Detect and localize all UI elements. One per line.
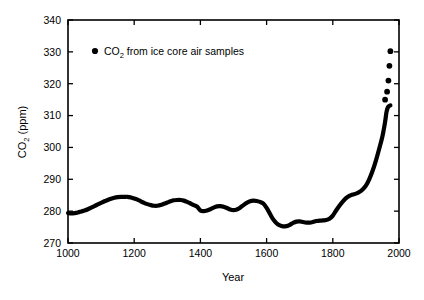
x-tick-label: 2000 (387, 247, 411, 259)
y-axis-title-unit: (ppm) (16, 106, 28, 138)
x-tick-label: 1400 (189, 247, 213, 259)
chart-canvas: 270280290300310320330340 100012001400160… (0, 0, 424, 300)
x-tick-label: 1600 (255, 247, 279, 259)
x-tick-label: 1800 (321, 247, 345, 259)
x-tick-label: 1200 (123, 247, 147, 259)
legend-label-rest: from ice core air samples (124, 45, 244, 57)
x-tick-label: 1000 (56, 247, 80, 259)
y-tick-label: 340 (43, 14, 61, 26)
data-point-marker (382, 97, 388, 103)
y-axis-title-base: CO (16, 141, 28, 158)
y-tick-label: 330 (43, 46, 61, 58)
legend-marker-filled-circle-icon (92, 48, 98, 54)
co2-ice-core-chart: 270280290300310320330340 100012001400160… (0, 0, 424, 300)
data-point-marker (384, 89, 390, 95)
y-tick-label: 320 (43, 78, 61, 90)
data-point-marker (387, 48, 393, 54)
x-axis-title: Year (222, 271, 245, 283)
legend-label-base: CO (104, 45, 120, 57)
y-tick-label: 290 (43, 173, 61, 185)
data-point-marker (386, 78, 392, 84)
data-point-marker (387, 63, 393, 69)
y-tick-label: 300 (43, 141, 61, 153)
y-tick-label: 280 (43, 205, 61, 217)
y-tick-label: 310 (43, 109, 61, 121)
